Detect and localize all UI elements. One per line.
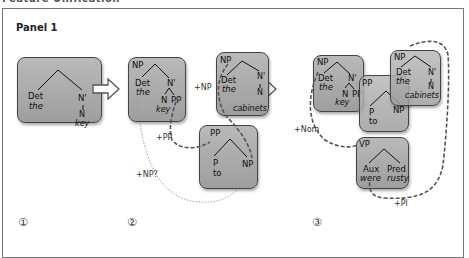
step-number-1: ① xyxy=(18,216,28,229)
step-number-2: ② xyxy=(127,216,137,229)
feature-pl: +Pl xyxy=(394,199,408,208)
step-number-3: ③ xyxy=(312,216,322,229)
feature-nom: +Nom xyxy=(294,125,319,134)
